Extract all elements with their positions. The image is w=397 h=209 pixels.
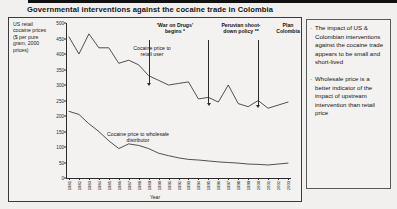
note-item: · The impact of US & Colombian intervent… <box>310 24 386 67</box>
x-tick-mark <box>228 178 229 180</box>
x-tick-mark <box>218 178 219 180</box>
y-tick-mark <box>64 147 66 148</box>
x-tick-label: 1990 <box>157 181 162 190</box>
chart-annotation-label: 'War on Drugs' begins * <box>149 22 201 34</box>
note-item: · Wholesale price is a better indicator … <box>310 75 386 118</box>
x-tick-label: 1995 <box>206 181 211 190</box>
y-tick-mark <box>64 100 66 101</box>
x-tick-label: 1996 <box>216 181 221 190</box>
y-tick-label: 0 <box>42 176 64 181</box>
x-tick-mark <box>238 178 239 180</box>
x-tick-label: 1994 <box>196 181 201 190</box>
wholesale-price-line <box>69 111 288 165</box>
x-tick-mark <box>129 178 130 180</box>
y-tick-mark <box>64 23 66 24</box>
y-tick-label: 300 <box>42 83 64 88</box>
x-axis-title: Year <box>9 194 301 200</box>
x-tick-label: 2000 <box>256 181 261 190</box>
x-tick-label: 1999 <box>246 181 251 190</box>
x-tick-label: 2003 <box>286 181 291 190</box>
y-tick-label: 150 <box>42 129 64 134</box>
annotation-arrowhead <box>207 103 211 106</box>
note-text: The impact of US & Colombian interventio… <box>315 24 386 67</box>
annotation-pointer <box>149 40 150 84</box>
y-tick-label: 50 <box>42 160 64 165</box>
x-tick-label: 2002 <box>276 181 281 190</box>
x-tick-mark <box>149 178 150 180</box>
y-tick-mark <box>64 85 66 86</box>
chart-annotation-label: Plan Colombia <box>271 22 305 34</box>
y-tick-mark <box>64 116 66 117</box>
note-text: Wholesale price is a better indicator of… <box>315 75 386 118</box>
annotation-arrowhead <box>147 83 151 86</box>
x-tick-mark <box>268 178 269 180</box>
x-tick-mark <box>139 178 140 180</box>
y-tick-mark <box>64 38 66 39</box>
y-tick-label: 450 <box>42 36 64 41</box>
x-tick-mark <box>169 178 170 180</box>
series-label: Cocaine price to retail user <box>127 45 177 57</box>
x-tick-mark <box>79 178 80 180</box>
x-tick-mark <box>99 178 100 180</box>
x-tick-mark <box>119 178 120 180</box>
series-label: Cocaine price to wholesale distributor <box>107 131 169 143</box>
x-tick-label: 1985 <box>107 181 112 190</box>
slide-root: Governmental interventions against the c… <box>0 0 397 209</box>
x-tick-label: 1981 <box>67 181 72 190</box>
y-tick-mark <box>64 131 66 132</box>
x-tick-label: 1993 <box>186 181 191 190</box>
x-tick-mark <box>288 178 289 180</box>
y-tick-label: 250 <box>42 98 64 103</box>
x-tick-mark <box>109 178 110 180</box>
x-tick-label: 1988 <box>137 181 142 190</box>
bullet-icon: · <box>310 75 312 118</box>
y-axis-ticks: 500450400350300250200150100500 <box>39 23 64 178</box>
y-tick-mark <box>64 69 66 70</box>
x-tick-mark <box>248 178 249 180</box>
page-title: Governmental interventions against the c… <box>27 5 327 14</box>
y-tick-mark <box>64 54 66 55</box>
x-tick-label: 1983 <box>87 181 92 190</box>
x-tick-label: 1998 <box>236 181 241 190</box>
top-rule <box>28 0 397 3</box>
annotation-pointer <box>258 40 259 106</box>
y-tick-label: 400 <box>42 52 64 57</box>
chart-annotation-label: Peruvian shoot-down policy ** <box>215 22 267 34</box>
annotation-arrowhead <box>256 105 260 108</box>
x-tick-mark <box>159 178 160 180</box>
x-tick-label: 1987 <box>127 181 132 190</box>
x-tick-label: 1989 <box>147 181 152 190</box>
x-tick-mark <box>188 178 189 180</box>
key-takeaways-box: · The impact of US & Colombian intervent… <box>306 19 391 189</box>
x-tick-label: 1991 <box>167 181 172 190</box>
x-tick-mark <box>69 178 70 180</box>
chart-container: US retail cocaine prices ($ per pure gra… <box>8 17 302 202</box>
x-tick-mark <box>89 178 90 180</box>
x-tick-mark <box>198 178 199 180</box>
x-tick-label: 1982 <box>77 181 82 190</box>
y-tick-mark <box>64 178 66 179</box>
y-tick-label: 200 <box>42 114 64 119</box>
bullet-icon: · <box>310 24 312 67</box>
x-tick-label: 2001 <box>266 181 271 190</box>
annotation-pointer <box>208 40 209 104</box>
x-tick-mark <box>278 178 279 180</box>
y-tick-label: 500 <box>42 21 64 26</box>
x-tick-label: 1992 <box>177 181 182 190</box>
x-tick-mark <box>179 178 180 180</box>
x-tick-mark <box>258 178 259 180</box>
y-tick-label: 100 <box>42 145 64 150</box>
y-tick-mark <box>64 162 66 163</box>
x-tick-label: 1986 <box>117 181 122 190</box>
x-tick-mark <box>208 178 209 180</box>
x-tick-label: 1984 <box>97 181 102 190</box>
y-tick-label: 350 <box>42 67 64 72</box>
x-tick-label: 1997 <box>226 181 231 190</box>
retail-price-line <box>69 34 288 108</box>
